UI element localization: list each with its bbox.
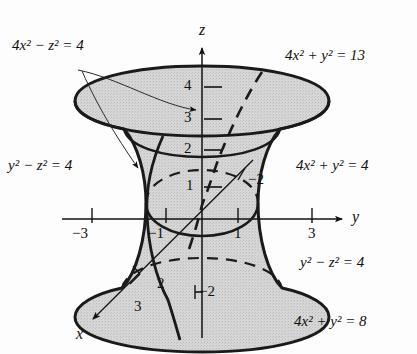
y-axis-label: y [352,209,359,225]
y-tick-label-3: 3 [308,226,316,241]
z-tick-label-4: 4 [184,78,192,93]
z-tick-label-3: 3 [184,110,192,125]
z-tick-label-neg2: −2 [199,284,215,299]
z-axis-label: z [199,22,205,38]
y-tick-label-neg3: −3 [72,226,88,241]
equation-label-lower-right: y² − z² = 4 [300,255,364,270]
x-tick-label-neg2: −2 [248,172,264,187]
equation-label-top-left: 4x² − z² = 4 [12,38,84,53]
x-axis-label: x [76,326,83,342]
z-tick-label-2: 2 [184,141,192,156]
y-tick-label-1: 1 [234,226,242,241]
hyperboloid-figure: 4x² − z² = 4 4x² + y² = 13 y² − z² = 4 4… [0,0,417,354]
equation-label-bottom-right: 4x² + y² = 8 [294,314,367,329]
equation-label-top-right: 4x² + y² = 13 [285,48,365,63]
y-tick-label-neg1: −1 [148,226,164,241]
x-tick-label-3: 3 [134,299,142,314]
equation-label-mid-right: 4x² + y² = 4 [296,158,369,173]
x-tick-label-2: 2 [157,276,165,291]
equation-label-mid-left: y² − z² = 4 [8,158,72,173]
z-tick-label-1: 1 [186,178,194,193]
